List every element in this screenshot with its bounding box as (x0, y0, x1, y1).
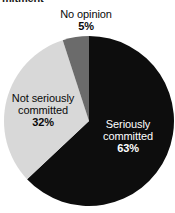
slice-label-seriously-committed-value: 63% (86, 142, 170, 154)
slice-label-no-opinion-name: No opinion (26, 8, 146, 20)
chart-canvas: mitment No opinion 5% Not seriously comm… (0, 0, 175, 213)
slice-label-not-seriously-committed: Not seriously committed 32% (0, 92, 92, 128)
slice-label-not-seriously-committed-name-line1: Not seriously (0, 92, 92, 104)
slice-label-not-seriously-committed-value: 32% (0, 116, 92, 128)
slice-label-no-opinion: No opinion 5% (26, 8, 146, 32)
slice-label-seriously-committed: Seriously committed 63% (86, 118, 170, 154)
slice-label-not-seriously-committed-name-line2: committed (0, 104, 92, 116)
slice-label-seriously-committed-name-line1: Seriously (86, 118, 170, 130)
slice-label-no-opinion-value: 5% (26, 20, 146, 32)
slice-label-seriously-committed-name-line2: committed (86, 130, 170, 142)
